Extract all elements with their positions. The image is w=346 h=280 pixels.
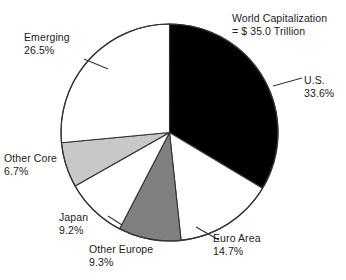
slice-label-euro-area: Euro Area 14.7% <box>213 232 261 257</box>
chart-title-line2: = $ 35.0 Trillion <box>232 25 327 38</box>
chart-title: World Capitalization = $ 35.0 Trillion <box>232 12 327 37</box>
slice-label-japan-percent: 9.2% <box>59 224 88 237</box>
slice-label-euro-area-name: Euro Area <box>213 232 261 245</box>
slice-label-euro-area-percent: 14.7% <box>213 245 261 258</box>
slice-label-us: U.S. 33.6% <box>304 74 334 99</box>
slice-label-other-core-name: Other Core <box>4 152 57 165</box>
slice-label-japan-name: Japan <box>59 211 88 224</box>
slice-label-other-core-percent: 6.7% <box>4 165 57 178</box>
pie-slice-group <box>61 24 278 241</box>
slice-label-emerging-name: Emerging <box>24 31 70 44</box>
slice-label-other-europe: Other Europe 9.3% <box>89 243 153 268</box>
pie-slice-emerging[interactable] <box>61 24 170 143</box>
chart-title-line1: World Capitalization <box>232 12 327 25</box>
pie-chart-figure: World Capitalization = $ 35.0 Trillion U… <box>0 0 346 280</box>
leader-line-us <box>273 78 302 86</box>
slice-label-other-europe-name: Other Europe <box>89 243 153 256</box>
slice-label-emerging-percent: 26.5% <box>24 44 70 57</box>
slice-label-other-europe-percent: 9.3% <box>89 256 153 269</box>
slice-label-emerging: Emerging 26.5% <box>24 31 70 56</box>
slice-label-us-percent: 33.6% <box>304 87 334 100</box>
slice-label-us-name: U.S. <box>304 74 334 87</box>
slice-label-japan: Japan 9.2% <box>59 211 88 236</box>
slice-label-other-core: Other Core 6.7% <box>4 152 57 177</box>
